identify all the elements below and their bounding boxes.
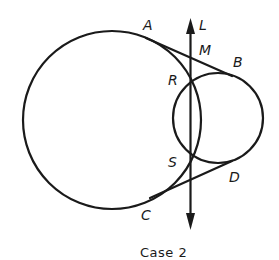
label-C: C xyxy=(141,207,151,223)
label-B: B xyxy=(233,54,243,70)
label-L: L xyxy=(199,17,207,33)
small-circle xyxy=(173,73,263,163)
figure-caption: Case 2 xyxy=(140,245,187,260)
label-S: S xyxy=(168,154,177,170)
label-D: D xyxy=(229,169,240,185)
arrowhead-up-icon xyxy=(186,18,195,34)
label-A: A xyxy=(142,17,153,33)
large-circle xyxy=(23,31,201,209)
geometry-diagram: A L M B R S D C Case 2 xyxy=(0,0,279,260)
tangent-AB xyxy=(146,38,232,76)
arrowhead-down-icon xyxy=(186,213,195,230)
label-R: R xyxy=(168,72,178,88)
label-M: M xyxy=(199,42,211,58)
